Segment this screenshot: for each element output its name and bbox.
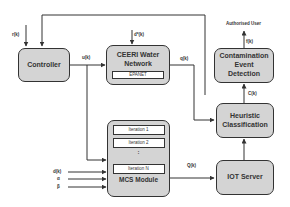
signal-u-k: u(k)	[82, 55, 90, 60]
signal-d-k: d(k)	[53, 169, 61, 174]
heuristic-line-2: Classification	[222, 121, 268, 130]
signal-f-k: f(k)	[246, 39, 253, 44]
iteration-ellipsis: :	[138, 148, 140, 164]
epanet-block: EPANET	[112, 71, 164, 79]
epanet-label: EPANET	[129, 72, 147, 78]
contamination-line-2: Event	[234, 61, 253, 70]
contamination-line-1: Contamination	[220, 52, 269, 61]
signal-r-k: r(k)	[12, 32, 19, 37]
signal-c-k: C(k)	[248, 91, 257, 96]
water-network-block: CEERI Water Network EPANET	[106, 45, 170, 85]
iot-server-block: IOT Server	[216, 160, 274, 195]
mcs-module-label: MCS Module	[119, 176, 158, 184]
signal-d-star-k: d*(k)	[134, 32, 144, 37]
controller-label: Controller	[27, 61, 60, 70]
heuristic-line-1: Heuristic	[230, 112, 260, 121]
water-network-title-2: Network	[124, 60, 152, 69]
contamination-line-3: Detection	[228, 70, 260, 79]
signal-beta: β	[57, 184, 60, 189]
heuristic-classification-block: Heuristic Classification	[216, 103, 274, 138]
iot-server-label: IOT Server	[227, 173, 262, 182]
contamination-detection-block: Contamination Event Detection	[214, 48, 274, 83]
signal-q-k: q(k)	[180, 56, 188, 61]
authorised-user-label: Authorised User	[226, 21, 261, 26]
signal-alpha: α	[57, 176, 60, 181]
signal-q-hat-k: Q(k)	[187, 163, 196, 168]
iteration-2-block: Iteration 2	[113, 138, 165, 148]
iteration-1-block: Iteration 1	[113, 125, 165, 135]
iteration-n-block: Iteration N	[113, 164, 165, 174]
water-network-title-1: CEERI Water	[117, 51, 160, 60]
controller-block: Controller	[18, 48, 70, 82]
mcs-module-block: Iteration 1 Iteration 2 : Iteration N MC…	[107, 120, 170, 197]
